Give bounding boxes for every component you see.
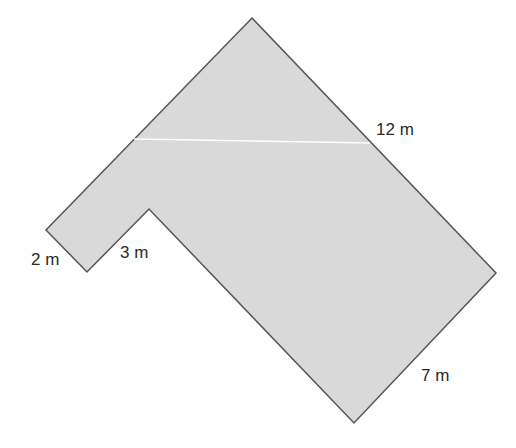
- label-12m: 12 m: [376, 120, 414, 140]
- shape-outline: [46, 18, 496, 423]
- diagram-canvas: 12 m 7 m 3 m 2 m: [0, 0, 516, 448]
- label-3m: 3 m: [120, 243, 148, 263]
- label-2m: 2 m: [31, 250, 59, 270]
- label-7m: 7 m: [421, 366, 449, 386]
